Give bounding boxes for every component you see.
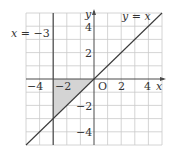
y-tick-minus-4: −4 — [76, 126, 92, 139]
x-tick-2: 2 — [118, 80, 125, 93]
y-tick-2: 2 — [85, 47, 92, 60]
x-axis-label: x — [156, 80, 163, 93]
y-tick-minus-2: −2 — [76, 100, 92, 113]
x-tick-minus-2: −2 — [55, 80, 71, 93]
x-tick-minus-4: −4 — [27, 80, 43, 93]
coordinate-plane: x = −3 y = x y x O −4 −2 2 4 4 2 −2 −4 — [0, 0, 173, 158]
y-axis-arrow-icon — [92, 9, 96, 15]
label-x-eq-minus-3: x = −3 — [11, 27, 50, 40]
x-tick-4: 4 — [144, 80, 151, 93]
label-y-eq-x: y = x — [121, 10, 151, 23]
y-tick-4: 4 — [85, 21, 92, 34]
y-axis-label: y — [84, 8, 92, 21]
origin-label: O — [98, 80, 107, 93]
